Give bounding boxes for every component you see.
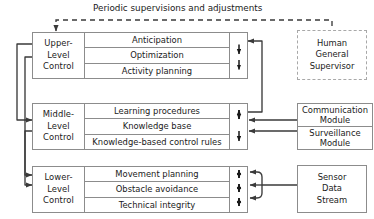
upper-level-label-line-1: Upper-	[44, 38, 72, 50]
middle-level-control-block: Middle- Level Control Learning procedure…	[32, 103, 248, 150]
row-anticipation: Anticipation	[85, 33, 229, 48]
lower-level-control-block: Lower- Level Control Movement planning O…	[32, 166, 248, 213]
communication-module-line-2: Module	[320, 115, 350, 125]
sensor-line-2: Data	[322, 183, 342, 194]
upper-level-rows: Anticipation Optimization Activity plann…	[85, 33, 229, 78]
diagram-caption: Periodic supervisions and adjustments	[93, 3, 262, 13]
upper-level-label-line-3: Control	[43, 61, 74, 73]
surveillance-module-line-1: Surveillance	[309, 128, 360, 138]
lower-level-rows: Movement planning Obstacle avoidance Tec…	[85, 167, 229, 212]
lower-level-control-label: Lower- Level Control	[33, 167, 85, 212]
lower-level-label-line-2: Level	[47, 184, 70, 196]
lower-level-label-line-1: Lower-	[44, 172, 72, 184]
row-learning-procedures: Learning procedures	[85, 104, 229, 119]
upper-level-control-label: Upper- Level Control	[33, 33, 85, 78]
supervisor-line-2: General	[315, 49, 348, 60]
communication-module-line-1: Communication	[302, 105, 368, 115]
supervisor-line-1: Human	[317, 38, 347, 49]
middle-level-control-label: Middle- Level Control	[33, 104, 85, 149]
hierarchical-control-diagram: Periodic supervisions and adjustments Up…	[0, 0, 374, 219]
row-technical-integrity: Technical integrity	[85, 198, 229, 212]
row-optimization: Optimization	[85, 48, 229, 63]
supervisor-line-3: Supervisor	[310, 61, 355, 72]
upper-level-control-block: Upper- Level Control Anticipation Optimi…	[32, 32, 248, 79]
row-movement-planning: Movement planning	[85, 167, 229, 182]
middle-level-arrow-column	[229, 104, 247, 149]
lower-level-arrow-column	[229, 167, 247, 212]
middle-level-label-line-2: Level	[47, 121, 70, 133]
surveillance-module-line-2: Module	[320, 138, 350, 148]
upper-level-label-line-2: Level	[47, 50, 70, 62]
sensor-line-3: Stream	[317, 195, 347, 206]
modules-stack: Communication Module Surveillance Module	[297, 103, 373, 150]
middle-level-rows: Learning procedures Knowledge base Knowl…	[85, 104, 229, 149]
box-layer: Periodic supervisions and adjustments Up…	[0, 0, 374, 219]
upper-level-arrow-column	[229, 33, 247, 78]
communication-module-box: Communication Module	[298, 104, 372, 127]
row-knowledge-based-control-rules: Knowledge-based control rules	[85, 135, 229, 149]
middle-level-label-line-1: Middle-	[43, 109, 74, 121]
row-obstacle-avoidance: Obstacle avoidance	[85, 182, 229, 197]
sensor-data-stream-box: Sensor Data Stream	[297, 165, 367, 213]
row-knowledge-base: Knowledge base	[85, 119, 229, 134]
sensor-line-1: Sensor	[318, 172, 347, 183]
middle-level-label-line-3: Control	[43, 132, 74, 144]
row-activity-planning: Activity planning	[85, 64, 229, 78]
surveillance-module-box: Surveillance Module	[298, 127, 372, 149]
lower-level-label-line-3: Control	[43, 195, 74, 207]
human-general-supervisor-box: Human General Supervisor	[297, 30, 367, 80]
